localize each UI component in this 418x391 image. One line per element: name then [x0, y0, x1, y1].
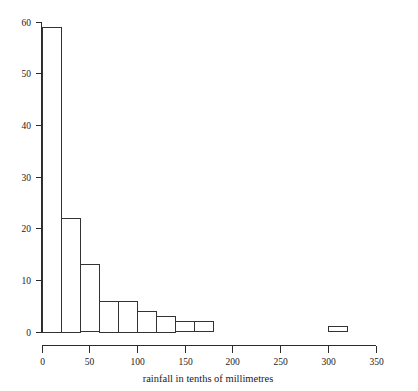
x-axis-tick-label: 200	[225, 357, 240, 367]
y-axis-tick-label: 10	[22, 276, 32, 286]
y-axis-tick-label: 40	[22, 121, 32, 131]
histogram-bar	[43, 28, 62, 333]
histogram-bar	[100, 302, 119, 333]
y-axis: 0102030405060	[22, 18, 42, 338]
histogram-bar	[119, 302, 138, 333]
x-axis-tick-label: 250	[273, 357, 288, 367]
x-axis-tick-label: 100	[130, 357, 145, 367]
y-axis-tick-label: 60	[22, 18, 32, 28]
histogram-bar	[157, 317, 176, 333]
histogram-bar	[195, 322, 214, 332]
histogram-bar	[176, 322, 195, 332]
x-axis-tick-label: 50	[85, 357, 95, 367]
y-axis-tick-label: 20	[22, 224, 32, 234]
x-axis-ticks: 050100150200250300350	[40, 346, 384, 368]
y-axis-tick-label: 0	[26, 328, 31, 338]
bars-group	[43, 28, 348, 333]
x-axis-tick-label: 300	[321, 357, 336, 367]
rainfall-histogram-plot: 0102030405060 050100150200250300350 rain…	[0, 0, 418, 391]
x-axis-tick-label: 350	[369, 357, 384, 367]
histogram-bar	[81, 265, 100, 332]
x-axis: 050100150200250300350	[40, 346, 384, 368]
histogram-bar	[329, 327, 348, 332]
y-axis-tick-label: 50	[22, 69, 32, 79]
histogram-figure: 0102030405060 050100150200250300350 rain…	[0, 0, 418, 391]
histogram-bar	[138, 312, 157, 333]
histogram-bar	[62, 219, 81, 333]
x-axis-tick-label: 150	[178, 357, 193, 367]
x-axis-tick-label: 0	[40, 357, 45, 367]
y-axis-ticks: 0102030405060	[22, 18, 42, 338]
x-axis-label: rainfall in tenths of millimetres	[143, 373, 274, 384]
y-axis-tick-label: 30	[22, 173, 32, 183]
